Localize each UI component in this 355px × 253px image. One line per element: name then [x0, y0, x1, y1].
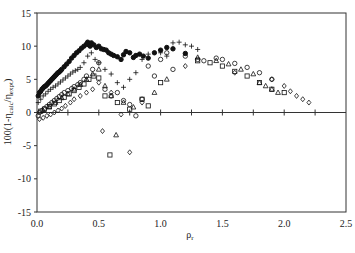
x-tick-label: 1.0: [154, 218, 167, 229]
x-tick-label: 2.5: [340, 218, 353, 229]
series-triangle: [41, 55, 281, 137]
y-tick-label: 10: [21, 41, 31, 52]
x-tick-label: 0.5: [93, 218, 106, 229]
y-tick-label: -5: [23, 140, 31, 151]
x-axis-label: ρr: [186, 229, 194, 242]
x-tick-label: 1.5: [216, 218, 229, 229]
series-diamond: [37, 64, 310, 155]
y-axis-label: 100(1-ηcalc/ηexpt): [2, 79, 15, 146]
y-axis-ticks: 151050-5-10-15: [18, 8, 37, 218]
series-square: [39, 59, 287, 157]
x-axis-ticks: 0.00.51.01.52.02.5: [31, 218, 353, 229]
scatter-chart: 151050-5-10-15 0.00.51.01.52.02.5 ρr 100…: [0, 0, 355, 253]
data-points: [36, 40, 311, 157]
x-tick-label: 0.0: [31, 218, 44, 229]
y-tick-label: 15: [21, 8, 31, 19]
series-filled-circle: [36, 40, 187, 98]
y-tick-label: 5: [26, 74, 31, 85]
y-tick-label: -10: [18, 173, 31, 184]
x-tick-label: 2.0: [278, 218, 291, 229]
zero-line: [37, 110, 346, 116]
y-tick-label: 0: [26, 107, 31, 118]
y-tick-label: -15: [18, 207, 31, 218]
